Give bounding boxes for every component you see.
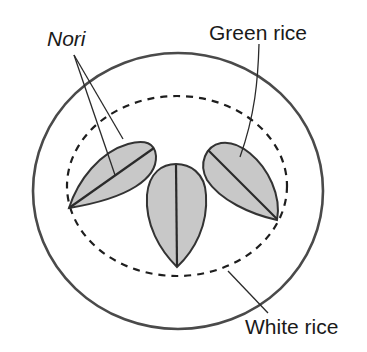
nori-label: Nori [47, 27, 87, 50]
green-rice-leader [240, 44, 259, 157]
left-leaf [69, 142, 156, 208]
sushi-diagram: Nori Green rice White rice [0, 0, 367, 352]
green-rice-label: Green rice [209, 21, 307, 44]
center-leaf [147, 164, 206, 267]
white-rice-leader [228, 271, 268, 313]
white-rice-label: White rice [245, 315, 338, 338]
